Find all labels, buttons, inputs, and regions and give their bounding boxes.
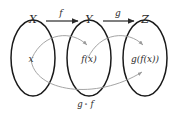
set-label-y: Y [85, 13, 94, 26]
element-label-fx: f(x) [80, 54, 97, 64]
composition-label-right: f [89, 99, 95, 109]
composition-label: g ∘ f [77, 99, 95, 109]
element-arrow-x-to-fx [32, 36, 87, 58]
map-label-f: f [58, 8, 64, 18]
composition-operator-icon: ∘ [85, 100, 88, 107]
function-composition-diagram: X Y Z f g x f(x) g(f(x)) g ∘ f [0, 0, 173, 114]
map-label-g: g [115, 8, 121, 18]
element-label-x: x [28, 54, 33, 64]
composition-label-left: g [77, 99, 83, 109]
diagram-canvas: X Y Z f g x f(x) g(f(x)) g ∘ f [0, 0, 173, 114]
set-label-x: X [28, 13, 38, 26]
element-label-gfx: g(f(x)) [131, 54, 160, 64]
set-label-z: Z [140, 13, 149, 26]
